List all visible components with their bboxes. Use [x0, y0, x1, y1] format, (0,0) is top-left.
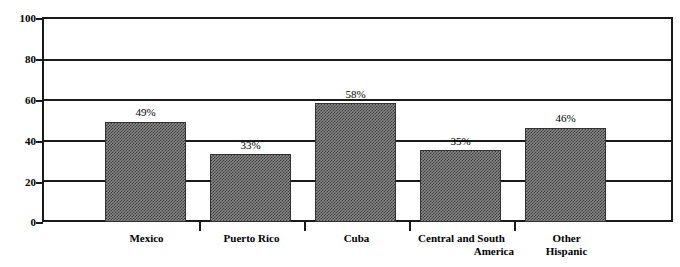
x-axis-labels: Mexico Puerto Rico Cuba Central and Sout…: [42, 232, 673, 267]
y-tick-label-80: 80: [2, 54, 36, 65]
x-tick-mark-1: [199, 222, 201, 231]
bar-label-mexico: 49%: [105, 107, 186, 118]
bar-puerto-rico: [210, 154, 291, 222]
bars-container: 49% 33% 58% 35% 46%: [42, 17, 673, 222]
x-label-puerto-rico-line1: Puerto Rico: [199, 232, 304, 245]
x-label-other-hispanic-line1: Other: [514, 232, 619, 245]
y-tick-label-40: 40: [2, 136, 36, 147]
bar-label-other-hispanic: 46%: [525, 113, 606, 124]
y-tick-label-20: 20: [2, 177, 36, 188]
y-tick-label-60: 60: [2, 95, 36, 106]
x-label-central-and-south-america-line1: Central and South: [409, 232, 514, 245]
y-tick-label-0: 0: [2, 217, 36, 228]
x-label-cuba: Cuba: [304, 232, 409, 245]
bar-mexico: [105, 122, 186, 222]
x-label-mexico-line1: Mexico: [94, 232, 199, 245]
bar-label-cuba: 58%: [315, 89, 396, 100]
x-label-other-hispanic-line2: Hispanic: [514, 245, 619, 258]
x-label-puerto-rico: Puerto Rico: [199, 232, 304, 245]
x-label-other-hispanic: Other Hispanic: [514, 232, 619, 258]
bar-label-central-and-south-america: 35%: [420, 136, 501, 147]
bar-other-hispanic: [525, 128, 606, 222]
bar-cuba: [315, 103, 396, 222]
x-tick-mark-4: [514, 222, 516, 231]
x-label-cuba-line1: Cuba: [304, 232, 409, 245]
x-tick-mark-3: [409, 222, 411, 231]
x-label-central-and-south-america-line2: America: [409, 245, 514, 258]
x-tick-mark-2: [304, 222, 306, 231]
x-axis-ticks: [42, 222, 673, 232]
x-label-mexico: Mexico: [94, 232, 199, 245]
bar-central-and-south-america: [420, 150, 501, 222]
bar-label-puerto-rico: 33%: [210, 140, 291, 151]
y-tick-label-100: 100: [2, 13, 36, 24]
x-label-central-and-south-america: Central and South America: [409, 232, 514, 258]
bar-chart: 100 80 60 40 20 0 49% 33% 58% 35% 46%: [0, 0, 680, 267]
